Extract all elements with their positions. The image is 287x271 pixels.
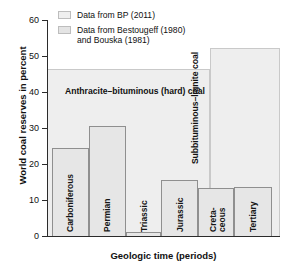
bar-label-tertiary: Tertiary [249, 201, 258, 232]
legend-item-bestougeff: Data from Bestougeff (1980) and Bouska (… [58, 25, 185, 45]
x-axis-line [47, 236, 280, 237]
y-axis-title: World coal reserves in percent [17, 36, 28, 196]
x-axis-title: Geologic time (periods) [47, 250, 280, 261]
y-tick-40 [42, 92, 47, 93]
legend: Data from BP (2011) Data from Bestougeff… [58, 10, 185, 50]
annotation-hard-coal: Anthracite–bituminous (hard) coal [60, 86, 210, 97]
bar-label-permian: Permian [103, 198, 112, 232]
annotation-soft-coal: Subbituminous–lignite coal [190, 48, 201, 168]
coal-reserves-bar-chart: Anthracite–bituminous (hard) coal Subbit… [0, 0, 287, 271]
y-tick-20 [42, 164, 47, 165]
y-tick-10 [42, 200, 47, 201]
y-tick-30 [42, 128, 47, 129]
bar-label-triassic: Triassic [140, 200, 149, 232]
legend-swatch-bp-icon [58, 11, 71, 19]
y-tick-50 [42, 56, 47, 57]
bar-label-carboniferous: Carboniferous [66, 174, 75, 232]
y-tick-label-0: 0 [0, 232, 39, 241]
legend-swatch-bestougeff-icon [58, 26, 71, 34]
y-tick-60 [42, 20, 47, 21]
y-axis-line [47, 20, 48, 237]
legend-label-bp: Data from BP (2011) [77, 10, 155, 20]
y-tick-label-60: 60 [0, 16, 39, 25]
legend-item-bp: Data from BP (2011) [58, 10, 185, 20]
y-tick-label-10: 10 [0, 196, 39, 205]
bar-label-jurassic: Jurassic [176, 198, 185, 233]
legend-label-bestougeff: Data from Bestougeff (1980) and Bouska (… [77, 25, 185, 45]
y-tick-0 [42, 236, 47, 237]
bar-label-cretaceous: Creta- ceous [209, 207, 226, 232]
